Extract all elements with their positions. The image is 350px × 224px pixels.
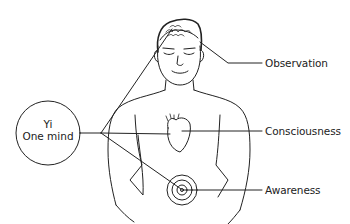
connector-lines bbox=[80, 29, 262, 190]
label-awareness: Awareness bbox=[265, 185, 320, 196]
center-node-line1: Yi bbox=[16, 118, 80, 130]
heart-icon bbox=[166, 114, 190, 152]
label-consciousness: Consciousness bbox=[265, 126, 341, 137]
center-node-line2: One mind bbox=[16, 130, 80, 142]
head-figure bbox=[154, 19, 204, 90]
label-observation: Observation bbox=[265, 58, 328, 69]
center-node-label: Yi One mind bbox=[16, 118, 80, 142]
torso-figure bbox=[108, 90, 250, 224]
mind-body-diagram: Yi One mind Observation Consciousness Aw… bbox=[0, 0, 350, 224]
